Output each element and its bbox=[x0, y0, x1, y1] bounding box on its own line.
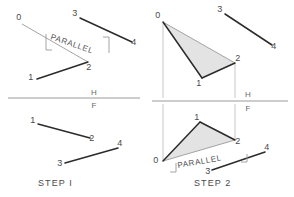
step-caption-layer: STEP ISTEP 2 bbox=[38, 178, 231, 188]
edge-3-4 bbox=[65, 148, 118, 163]
vertex-label-2: 2 bbox=[89, 133, 94, 143]
vertex-label-3: 3 bbox=[217, 4, 222, 14]
parallel-tick-left bbox=[170, 163, 176, 172]
vertex-label-4: 4 bbox=[117, 138, 122, 148]
parallel-annotation-step-1-top: PARALLEL bbox=[46, 32, 109, 55]
vertex-label-2: 2 bbox=[235, 136, 240, 146]
vertex-label-2: 2 bbox=[86, 62, 91, 72]
h-label-left: H bbox=[91, 88, 97, 97]
parallel-label: PARALLEL bbox=[177, 153, 223, 170]
vertex-label-0: 0 bbox=[153, 155, 158, 165]
panel-step-1-bottom: 1234 bbox=[30, 115, 122, 168]
vertex-label-1: 1 bbox=[194, 112, 199, 122]
vertex-label-0: 0 bbox=[16, 12, 21, 22]
f-label-left: F bbox=[91, 101, 96, 110]
vertex-label-1: 1 bbox=[196, 78, 201, 88]
vertex-label-4: 4 bbox=[131, 37, 136, 47]
vertex-label-0: 0 bbox=[155, 10, 160, 20]
vertex-label-4: 4 bbox=[271, 41, 276, 51]
edge-1-2 bbox=[37, 62, 88, 79]
edge-3-4 bbox=[80, 18, 132, 42]
vertex-label-1: 1 bbox=[28, 72, 33, 82]
shaded-face bbox=[163, 22, 235, 78]
f-label-right: F bbox=[245, 104, 250, 113]
panel-step-2-bottom: 01234 bbox=[153, 104, 269, 176]
vertex-label-3: 3 bbox=[72, 8, 77, 18]
step-caption-step-2-bottom: STEP 2 bbox=[194, 178, 231, 188]
shaded-face bbox=[163, 122, 235, 161]
edge-1-2 bbox=[38, 124, 90, 138]
orthographic-projection-diagram: H F H F 0123412340123401234 PARALLELPARA… bbox=[0, 0, 294, 197]
h-label-right: H bbox=[245, 90, 251, 99]
vertex-label-2: 2 bbox=[235, 53, 240, 63]
panel-layer: 0123412340123401234 bbox=[16, 4, 276, 176]
vertex-label-3: 3 bbox=[57, 158, 62, 168]
edge-3-4 bbox=[225, 14, 272, 45]
parallel-tick-right bbox=[103, 37, 109, 53]
vertex-label-1: 1 bbox=[30, 115, 35, 125]
vertex-label-3: 3 bbox=[205, 166, 210, 176]
vertex-label-4: 4 bbox=[264, 142, 269, 152]
technical-drawing-canvas: H F H F 0123412340123401234 PARALLELPARA… bbox=[0, 0, 294, 197]
panel-step-2-top: 01234 bbox=[155, 4, 276, 98]
step-caption-step-1-bottom: STEP I bbox=[38, 178, 73, 188]
